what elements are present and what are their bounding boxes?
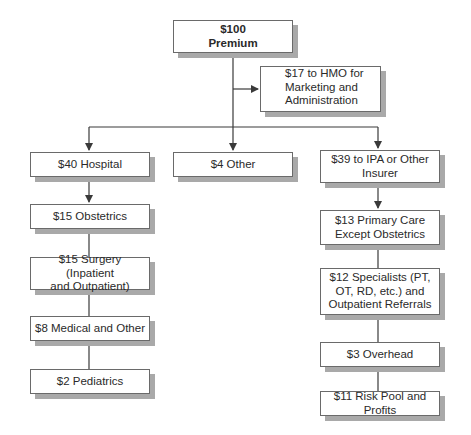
ipa-node: $39 to IPA or Other Insurer bbox=[320, 150, 440, 183]
primary-line1: $13 Primary Care bbox=[335, 214, 425, 228]
specialists-line2: OT, RD, etc.) and bbox=[336, 285, 425, 299]
overhead-label: $3 Overhead bbox=[347, 348, 414, 362]
surgery-node: $15 Surgery (Inpatient and Outpatient) bbox=[30, 257, 150, 290]
risk-pool-label: $11 Risk Pool and Profits bbox=[325, 390, 435, 417]
surgery-line2: and Outpatient) bbox=[50, 280, 129, 294]
ipa-line1: $39 to IPA or Other bbox=[331, 153, 429, 167]
primary-care-node: $13 Primary Care Except Obstetrics bbox=[320, 210, 440, 245]
medical-label: $8 Medical and Other bbox=[35, 322, 145, 336]
pediatrics-label: $2 Pediatrics bbox=[57, 375, 123, 389]
premium-label: Premium bbox=[208, 37, 257, 51]
other-label: $4 Other bbox=[211, 158, 256, 172]
other-node: $4 Other bbox=[173, 152, 293, 177]
risk-pool-node: $11 Risk Pool and Profits bbox=[320, 391, 440, 416]
medical-node: $8 Medical and Other bbox=[30, 316, 150, 341]
specialists-line1: $12 Specialists (PT, bbox=[330, 271, 431, 285]
surgery-line1: $15 Surgery (Inpatient bbox=[35, 253, 145, 280]
hmo-node: $17 to HMO for Marketing and Administrat… bbox=[260, 66, 381, 112]
premium-node: $100 Premium bbox=[173, 20, 293, 53]
overhead-node: $3 Overhead bbox=[320, 342, 440, 367]
pediatrics-node: $2 Pediatrics bbox=[30, 369, 150, 394]
ipa-line2: Insurer bbox=[362, 167, 398, 181]
obstetrics-label: $15 Obstetrics bbox=[53, 210, 127, 224]
specialists-line3: Outpatient Referrals bbox=[329, 298, 432, 312]
hmo-line3: Administration bbox=[285, 94, 358, 108]
hospital-label: $40 Hospital bbox=[58, 158, 122, 172]
obstetrics-node: $15 Obstetrics bbox=[30, 204, 150, 229]
premium-amount: $100 bbox=[220, 23, 246, 37]
hmo-line1: $17 to HMO for bbox=[285, 67, 364, 81]
hmo-line2: Marketing and bbox=[285, 81, 358, 95]
primary-line2: Except Obstetrics bbox=[335, 228, 425, 242]
hospital-node: $40 Hospital bbox=[30, 152, 150, 177]
specialists-node: $12 Specialists (PT, OT, RD, etc.) and O… bbox=[320, 268, 440, 315]
